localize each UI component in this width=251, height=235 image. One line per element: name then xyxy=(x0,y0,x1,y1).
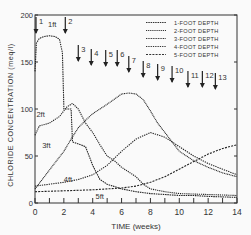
y-axis-label: CHLORIDE CONCENTRATION (meq/l) xyxy=(6,43,15,187)
event-label: 8 xyxy=(146,61,150,70)
event-label: 2 xyxy=(68,17,72,26)
x-tick-label: 0 xyxy=(33,207,38,217)
x-tick-label: 8 xyxy=(148,207,153,217)
arrow-head-icon xyxy=(200,83,205,88)
curve-label-1: 1ft xyxy=(48,20,57,29)
x-tick-label: 10 xyxy=(175,207,185,217)
series-line-1 xyxy=(35,36,237,198)
x-axis-label: TIME (weeks) xyxy=(111,222,161,231)
arrow-head-icon xyxy=(126,68,131,73)
arrow-head-icon xyxy=(141,73,146,78)
event-label: 11 xyxy=(191,71,199,80)
curve-label-4: 4ft xyxy=(64,175,73,184)
event-label: 9 xyxy=(161,64,165,73)
legend-label: 2-FOOT DEPTH xyxy=(174,28,219,34)
arrow-head-icon xyxy=(170,78,175,83)
event-label: 6 xyxy=(120,50,124,59)
x-tick-label: 6 xyxy=(119,207,124,217)
y-tick-label: 150 xyxy=(20,58,33,67)
y-tick-label: 50 xyxy=(25,152,33,161)
y-tick-label: 200 xyxy=(20,11,33,20)
curve-label-3: 3ft xyxy=(42,141,51,150)
event-label: 7 xyxy=(132,56,136,65)
event-label: 10 xyxy=(175,66,183,75)
event-label: 1 xyxy=(39,17,43,26)
curve-label-2: 2ft xyxy=(36,110,45,119)
event-label: 3 xyxy=(81,45,85,54)
x-tick-label: 2 xyxy=(61,207,66,217)
arrow-head-icon xyxy=(115,62,120,67)
x-tick-label: 14 xyxy=(232,207,242,217)
line-chart: 02468101214050100150200TIME (weeks)CHLOR… xyxy=(0,0,251,235)
legend-label: 3-FOOT DEPTH xyxy=(174,36,219,42)
chart-figure: 02468101214050100150200TIME (weeks)CHLOR… xyxy=(0,0,251,235)
legend-label: 1-FOOT DEPTH xyxy=(174,20,219,26)
x-tick-label: 4 xyxy=(90,207,95,217)
event-label: 12 xyxy=(205,71,213,80)
arrow-head-icon xyxy=(34,29,39,34)
arrow-head-icon xyxy=(76,57,81,62)
y-tick-label: 100 xyxy=(20,105,33,114)
event-label: 5 xyxy=(109,50,113,59)
curve-label-5: 5ft xyxy=(96,192,105,201)
legend-label: 5-FOOT DEPTH xyxy=(174,52,219,58)
legend-label: 4-FOOT DEPTH xyxy=(174,44,219,50)
arrow-head-icon xyxy=(103,62,108,67)
arrow-head-icon xyxy=(89,61,94,66)
x-tick-label: 12 xyxy=(203,207,213,217)
arrow-head-icon xyxy=(63,29,68,34)
event-label: 4 xyxy=(94,49,98,58)
y-tick-label: 0 xyxy=(29,199,33,208)
arrow-head-icon xyxy=(155,76,160,81)
event-label: 13 xyxy=(218,73,226,82)
series-line-5 xyxy=(35,145,237,192)
arrow-head-icon xyxy=(213,85,218,90)
arrow-head-icon xyxy=(185,83,190,88)
